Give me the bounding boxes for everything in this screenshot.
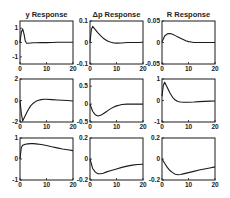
x-tick-label: 0 — [155, 123, 169, 130]
subplot-r1-c2 — [162, 79, 215, 122]
x-tick-label: 10 — [110, 181, 124, 188]
response-line — [20, 29, 73, 43]
y-tick-label: 1 — [0, 24, 18, 31]
y-tick-label: 0 — [70, 39, 88, 46]
y-tick-label: 0 — [142, 97, 160, 104]
x-tick-label: 0 — [155, 65, 169, 72]
x-tick-label: 0 — [13, 181, 27, 188]
impulse-response-grid — [0, 0, 230, 198]
subplot-title: Δp Response — [87, 10, 147, 19]
subplot-title: R Response — [159, 10, 219, 19]
subplot-title: y Response — [17, 10, 77, 19]
subplot-r0-c1 — [90, 21, 143, 64]
x-tick-label: 10 — [110, 65, 124, 72]
x-tick-label: 10 — [182, 181, 196, 188]
y-tick-label: 0 — [70, 100, 88, 107]
y-tick-label: 0.2 — [142, 134, 160, 141]
response-line — [162, 159, 215, 175]
x-tick-label: 10 — [40, 123, 54, 130]
axes-frame — [162, 138, 215, 180]
response-line — [90, 159, 143, 174]
x-tick-label: 0 — [155, 181, 169, 188]
y-tick-label: 1 — [142, 75, 160, 82]
subplot-r1-c1 — [90, 79, 143, 122]
x-tick-label: 10 — [40, 181, 54, 188]
subplot-r2-c1 — [90, 138, 143, 180]
y-tick-label: 0 — [142, 155, 160, 162]
subplot-r1-c0 — [20, 79, 73, 122]
y-tick-label: 0.05 — [142, 17, 160, 24]
subplot-r2-c0 — [20, 138, 73, 180]
y-tick-label: 0 — [0, 155, 18, 162]
y-tick-label: 0 — [0, 97, 18, 104]
y-tick-label: 2 — [0, 75, 18, 82]
axes-frame — [162, 79, 215, 122]
x-tick-label: 20 — [208, 65, 222, 72]
subplot-r2-c2 — [162, 138, 215, 180]
x-tick-label: 0 — [13, 65, 27, 72]
x-tick-label: 10 — [182, 123, 196, 130]
y-tick-label: 1 — [0, 134, 18, 141]
x-tick-label: 0 — [83, 123, 97, 130]
x-tick-label: 10 — [40, 65, 54, 72]
x-tick-label: 10 — [110, 123, 124, 130]
response-line — [20, 144, 73, 159]
y-tick-label: 0.5 — [70, 82, 88, 89]
response-line — [20, 99, 73, 121]
subplot-r0-c0 — [20, 21, 73, 64]
x-tick-label: 0 — [83, 65, 97, 72]
y-tick-label: 0 — [70, 155, 88, 162]
subplot-r0-c2 — [162, 21, 215, 64]
y-tick-label: 0 — [0, 39, 18, 46]
y-tick-label: 0.2 — [70, 134, 88, 141]
x-tick-label: 10 — [182, 65, 196, 72]
x-tick-label: 0 — [13, 123, 27, 130]
y-tick-label: -1 — [0, 53, 18, 60]
x-tick-label: 0 — [83, 181, 97, 188]
response-line — [90, 104, 143, 116]
y-tick-label: 0.1 — [70, 17, 88, 24]
x-tick-label: 20 — [208, 181, 222, 188]
response-line — [162, 82, 215, 102]
x-tick-label: 20 — [208, 123, 222, 130]
impulse-response-figure: y Response10-101020Δp Response0.10-0.101… — [0, 0, 230, 198]
y-tick-label: 0 — [142, 39, 160, 46]
response-line — [162, 33, 215, 42]
response-line — [90, 26, 143, 43]
